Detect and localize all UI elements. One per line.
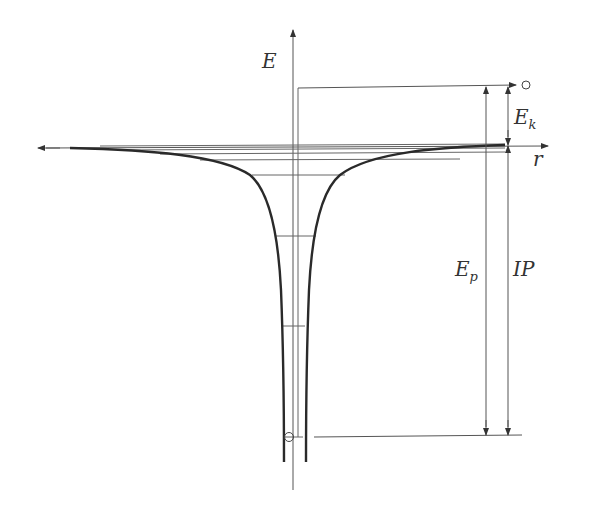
energy-axis-label: E (261, 49, 277, 73)
ground-level-line (314, 435, 522, 437)
potential-energy-label: Ep (454, 257, 479, 284)
ionization-path (298, 81, 530, 89)
potential-well-diagram: E r Ek Ep IP (0, 0, 591, 517)
energy-levels (100, 144, 505, 437)
ionization-potential-label: IP (512, 257, 535, 281)
potential-curve (70, 145, 505, 462)
kinetic-energy-label: Ek (513, 105, 537, 132)
free-electron-icon (522, 81, 530, 89)
radius-axis-label: r (533, 147, 544, 171)
